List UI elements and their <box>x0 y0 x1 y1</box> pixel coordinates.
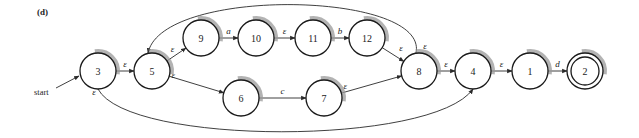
edge-12-to-8: ε <box>382 43 404 62</box>
state-node-5: 5 <box>134 52 172 89</box>
start-arrow <box>56 76 79 88</box>
edge-label: ε <box>444 59 448 69</box>
edge-label: ε <box>500 59 504 69</box>
state-node-8: 8 <box>401 52 439 90</box>
state-label: 2 <box>583 66 588 77</box>
state-node-11: 11 <box>295 18 333 56</box>
nodes: 359101112678412 <box>80 18 605 116</box>
state-label: 11 <box>308 33 318 44</box>
state-label: 9 <box>199 33 204 44</box>
edge-line <box>169 76 224 93</box>
state-label: 3 <box>96 66 101 77</box>
edge-label: d <box>555 59 560 69</box>
state-label: 4 <box>471 66 476 77</box>
state-node-7: 7 <box>306 79 344 117</box>
edge-label: ε <box>399 43 403 53</box>
edge-label: ε <box>123 59 127 69</box>
edge-7-to-8: ε <box>341 76 401 93</box>
start-label: start <box>34 87 49 97</box>
edge-line <box>98 89 473 132</box>
edge-label: b <box>338 26 343 36</box>
state-label: 7 <box>322 93 327 104</box>
state-node-1: 1 <box>512 51 550 89</box>
state-node-6: 6 <box>223 79 261 117</box>
state-node-4: 4 <box>455 52 493 90</box>
state-label: 1 <box>528 66 533 77</box>
state-label: 8 <box>417 66 422 77</box>
state-label: 6 <box>239 93 244 104</box>
nfa-diagram: (d) εεaεbεεcεεεεεd 359101112678412 start <box>0 0 639 138</box>
edge-label: ε <box>283 26 287 36</box>
state-label: 12 <box>362 33 372 44</box>
state-node-12: 12 <box>349 18 386 56</box>
state-label: 10 <box>251 33 261 44</box>
edge-6-to-7: c <box>259 86 306 98</box>
edge-5-to-6: ε <box>169 70 224 93</box>
state-node-10: 10 <box>238 18 275 56</box>
state-node-3: 3 <box>80 52 118 90</box>
panel-label: (d) <box>37 7 48 17</box>
edge-line <box>341 76 401 93</box>
state-node-9: 9 <box>183 18 220 56</box>
edge-label: c <box>281 86 285 96</box>
edge-label: a <box>226 26 231 36</box>
state-label: 5 <box>150 66 155 77</box>
start-indicator: start <box>34 76 79 97</box>
edge-label: ε <box>171 44 175 54</box>
state-node-2: 2 <box>567 52 605 90</box>
